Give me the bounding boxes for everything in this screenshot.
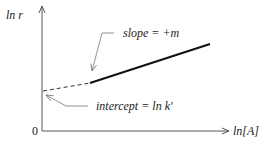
x-axis-label: ln[A]: [233, 124, 259, 138]
slope-leader-arrow: [92, 33, 114, 71]
slope-annotation: slope = +m: [123, 26, 180, 40]
intercept-annotation: intercept = ln k′: [96, 99, 173, 113]
origin-label: 0: [32, 124, 38, 138]
intercept-leader-arrow: [46, 95, 88, 106]
y-axis-label: ln r: [6, 8, 23, 22]
extrapolation-dashed-line: [43, 83, 90, 91]
data-line: [90, 44, 210, 83]
rate-law-plot: ln r ln[A] 0 slope = +m intercept = ln k…: [0, 0, 261, 147]
